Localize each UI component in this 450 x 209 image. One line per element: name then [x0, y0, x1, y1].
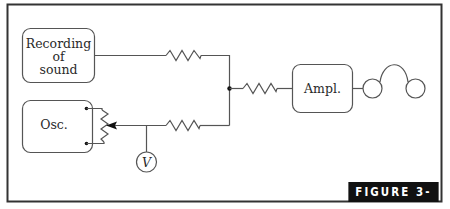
resistor-r1-icon — [166, 51, 201, 61]
recording-box: Recording of sound — [23, 29, 95, 83]
circuit-diagram: Recording of sound Ampl. Osc. — [0, 0, 450, 209]
figure-label: FIGURE 3-18 — [348, 182, 438, 202]
wire-to-amplifier — [230, 84, 293, 94]
recording-label-line3: sound — [39, 62, 77, 77]
headphones-icon — [363, 65, 425, 98]
amplifier-box: Ampl. — [293, 65, 353, 113]
wire-top-branch — [95, 51, 230, 126]
amplifier-label: Ampl. — [303, 81, 341, 96]
resistor-r2-icon — [166, 121, 200, 131]
wire-bottom-branch — [115, 121, 230, 153]
oscillator-box: Osc. — [23, 101, 93, 153]
resistor-r3-icon — [243, 84, 277, 94]
oscillator-label: Osc. — [40, 117, 68, 132]
voltmeter-icon: V — [137, 152, 157, 172]
